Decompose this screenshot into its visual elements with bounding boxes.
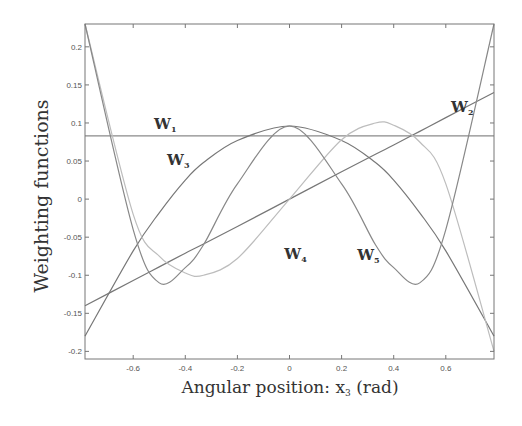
y-axis-title: Weighting functions bbox=[30, 99, 52, 292]
plot-frame bbox=[85, 24, 494, 359]
x-axis-ticks: -0.6-0.4-0.200.20.40.6 bbox=[126, 24, 452, 373]
x-tick-label: 0 bbox=[287, 364, 292, 373]
x-tick-label: 0.4 bbox=[388, 364, 400, 373]
y-tick-label: -0.1 bbox=[68, 271, 82, 280]
curve-w4 bbox=[85, 24, 494, 351]
label-w1: W1 bbox=[153, 115, 176, 134]
y-tick-label: 0.2 bbox=[71, 43, 83, 52]
y-tick-label: 0.05 bbox=[66, 157, 82, 166]
label-w2: W2 bbox=[450, 98, 473, 117]
y-tick-label: 0 bbox=[78, 195, 83, 204]
curve-labels: W1W2W3W4W5 bbox=[153, 98, 473, 265]
x-axis-title-tail: (rad) bbox=[351, 377, 399, 397]
chart: -0.6-0.4-0.200.20.40.6 -0.2-0.15-0.1-0.0… bbox=[0, 0, 522, 426]
label-w3: W3 bbox=[166, 151, 190, 170]
x-tick-label: -0.4 bbox=[178, 364, 192, 373]
curves-group bbox=[85, 24, 494, 351]
y-tick-label: 0.1 bbox=[71, 119, 83, 128]
x-tick-label: -0.6 bbox=[126, 364, 140, 373]
curve-w3 bbox=[85, 126, 494, 336]
y-tick-label: 0.15 bbox=[66, 81, 82, 90]
x-tick-label: 0.2 bbox=[336, 364, 348, 373]
y-tick-label: -0.05 bbox=[64, 233, 83, 242]
x-axis-title-main: Angular position: x bbox=[180, 377, 345, 397]
y-tick-label: -0.2 bbox=[68, 347, 82, 356]
y-tick-label: -0.15 bbox=[64, 309, 83, 318]
label-w4: W4 bbox=[283, 245, 307, 264]
x-tick-label: 0.6 bbox=[440, 364, 452, 373]
x-tick-label: -0.2 bbox=[230, 364, 244, 373]
x-axis-title: Angular position: x3 (rad) bbox=[180, 377, 398, 398]
label-w5: W5 bbox=[356, 246, 379, 265]
